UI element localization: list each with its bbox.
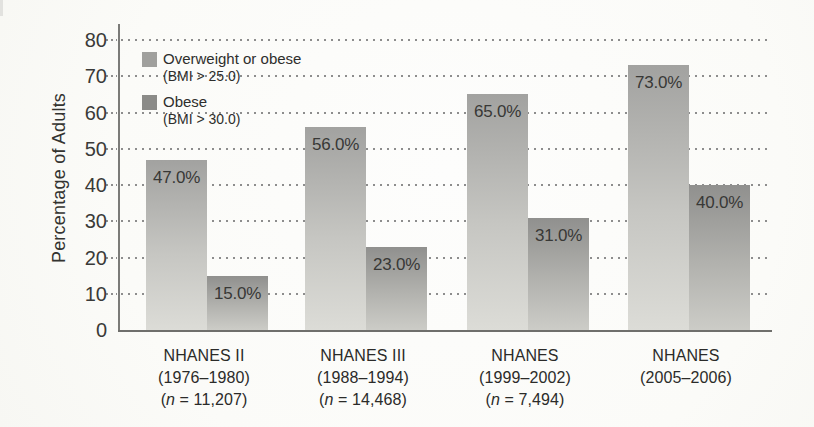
bar-value-label: 65.0% xyxy=(467,102,528,122)
x-axis-label-line: NHANES xyxy=(601,345,771,367)
y-tick-label-30: 30 xyxy=(40,209,107,233)
bar-overweight-3: 73.0% xyxy=(628,65,689,330)
y-tick-label-10: 10 xyxy=(40,282,107,306)
legend-label: Obese xyxy=(163,93,240,111)
x-axis-label-line: (1999–2002) xyxy=(440,367,610,389)
y-tick-mark-50 xyxy=(106,148,117,150)
bar-obese-3: 40.0% xyxy=(689,185,750,330)
y-tick-label-70: 70 xyxy=(40,64,107,88)
legend: Overweight or obese(BMI > 25.0)Obese(BMI… xyxy=(142,50,301,136)
y-tick-label-20: 20 xyxy=(40,246,107,270)
bar-value-label: 40.0% xyxy=(689,193,750,213)
legend-sublabel: (BMI > 30.0) xyxy=(163,111,240,127)
bar-value-label: 15.0% xyxy=(207,284,268,304)
x-axis-label-3: NHANES(2005–2006) xyxy=(601,345,771,389)
y-tick-mark-30 xyxy=(106,220,117,222)
legend-item-1: Obese(BMI > 30.0) xyxy=(142,93,301,127)
bar-obese-2: 31.0% xyxy=(528,218,589,330)
x-axis-label-line: (n = 7,494) xyxy=(440,389,610,411)
x-axis-label-line: NHANES III xyxy=(278,345,448,367)
bar-obese-0: 15.0% xyxy=(207,276,268,330)
legend-sublabel: (BMI > 25.0) xyxy=(163,68,301,84)
legend-text: Obese(BMI > 30.0) xyxy=(163,93,240,127)
legend-text: Overweight or obese(BMI > 25.0) xyxy=(163,50,301,84)
x-axis-line xyxy=(118,330,772,332)
y-axis-line xyxy=(118,24,120,332)
bar-value-label: 23.0% xyxy=(366,255,427,275)
y-tick-label-60: 60 xyxy=(40,101,107,125)
y-tick-label-80: 80 xyxy=(40,28,107,52)
bar-obese-1: 23.0% xyxy=(366,247,427,330)
x-axis-label-0: NHANES II(1976–1980)(n = 11,207) xyxy=(119,345,289,411)
legend-label: Overweight or obese xyxy=(163,50,301,68)
y-tick-mark-40 xyxy=(106,184,117,186)
legend-swatch-icon xyxy=(142,52,157,67)
y-tick-mark-60 xyxy=(106,112,117,114)
bar-value-label: 31.0% xyxy=(528,226,589,246)
gridline-80 xyxy=(121,39,771,41)
x-axis-label-line: NHANES xyxy=(440,345,610,367)
x-axis-label-line: (n = 11,207) xyxy=(119,389,289,411)
bar-chart-figure: Percentage of Adults 01020304050607080 4… xyxy=(0,0,814,427)
bar-value-label: 47.0% xyxy=(146,168,207,188)
y-tick-mark-10 xyxy=(106,293,117,295)
y-tick-label-50: 50 xyxy=(40,137,107,161)
scan-artifact xyxy=(0,0,3,16)
x-axis-label-2: NHANES(1999–2002)(n = 7,494) xyxy=(440,345,610,411)
x-axis-label-line: (2005–2006) xyxy=(601,367,771,389)
y-tick-mark-80 xyxy=(106,39,117,41)
legend-swatch-icon xyxy=(142,95,157,110)
legend-item-0: Overweight or obese(BMI > 25.0) xyxy=(142,50,301,84)
x-axis-label-line: (1988–1994) xyxy=(278,367,448,389)
bar-overweight-1: 56.0% xyxy=(305,127,366,330)
x-axis-label-line: (1976–1980) xyxy=(119,367,289,389)
x-axis-label-line: (n = 14,468) xyxy=(278,389,448,411)
bar-value-label: 56.0% xyxy=(305,135,366,155)
y-tick-label-40: 40 xyxy=(40,173,107,197)
y-tick-mark-20 xyxy=(106,257,117,259)
bar-overweight-0: 47.0% xyxy=(146,160,207,330)
x-axis-label-1: NHANES III(1988–1994)(n = 14,468) xyxy=(278,345,448,411)
bar-value-label: 73.0% xyxy=(628,73,689,93)
y-tick-mark-70 xyxy=(106,75,117,77)
x-axis-label-line: NHANES II xyxy=(119,345,289,367)
y-tick-label-0: 0 xyxy=(40,318,107,342)
bar-overweight-2: 65.0% xyxy=(467,94,528,330)
